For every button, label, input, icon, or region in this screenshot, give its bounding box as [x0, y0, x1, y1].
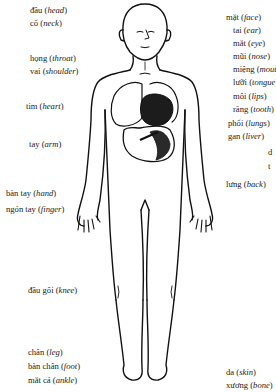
label-liver: gan (liver) — [228, 131, 264, 141]
torso-outline — [77, 70, 130, 226]
label-leg: chân (leg) — [28, 347, 63, 357]
label-mouth: miệng (mouth) — [233, 64, 276, 74]
label-tongue: lưỡi (tongue) — [233, 77, 276, 87]
label-cut-d: d — [268, 147, 272, 157]
label-skin: da (skin) — [226, 367, 256, 377]
label-cut-t: t — [268, 161, 270, 171]
label-nose: mũi (nose) — [233, 51, 270, 61]
label-arm: tay (arm) — [29, 139, 61, 149]
head-outline — [123, 4, 167, 60]
label-head: đầu (head) — [30, 5, 67, 15]
label-hand: bàn tay (hand) — [6, 188, 56, 198]
label-tooth: răng (tooth) — [233, 104, 274, 114]
label-heart: tim (heart) — [26, 101, 64, 111]
label-face: mặt (face) — [226, 12, 261, 22]
label-ankle: mắt cá (ankle) — [28, 375, 77, 385]
label-neck: cổ (neck) — [30, 18, 62, 28]
label-foot: bàn chân (foot) — [28, 361, 80, 371]
lungs-outline — [111, 83, 142, 127]
heart-organ — [141, 94, 173, 126]
label-shoulder: vai (shoulder) — [30, 66, 78, 76]
label-knee: đầu gối (knee) — [28, 285, 77, 295]
label-throat: họng (throat) — [30, 53, 76, 63]
label-back: lưng (back) — [226, 179, 266, 189]
label-bone: xương (bone) — [226, 380, 273, 390]
label-eye: mắt (eye) — [233, 38, 265, 48]
label-lungs: phổi (lungs) — [228, 118, 270, 128]
label-finger: ngón tay (finger) — [6, 204, 64, 214]
label-ear: tai (ear) — [233, 25, 261, 35]
label-lips: môi (lips) — [233, 91, 267, 101]
